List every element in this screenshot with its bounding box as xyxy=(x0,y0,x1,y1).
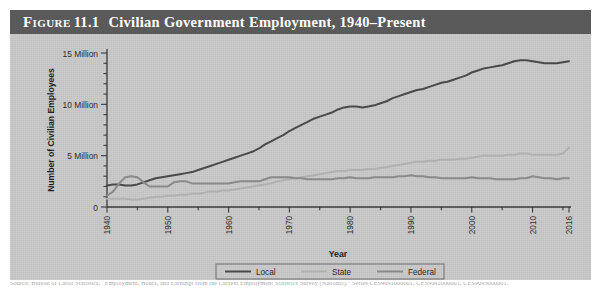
series-line-state xyxy=(107,147,569,199)
figure-panel: Figure11.1Civilian Government Employment… xyxy=(10,10,591,280)
x-tick-label: 1950 xyxy=(164,216,173,235)
y-tick-label: 15 Million xyxy=(63,49,99,59)
x-tick-label: 2000 xyxy=(468,216,477,235)
chart-area: 05 Million10 Million15 MillionNumber of … xyxy=(10,34,591,280)
y-tick-label: 5 Million xyxy=(67,151,98,161)
legend-label-local: Local xyxy=(256,268,276,277)
line-chart: 05 Million10 Million15 MillionNumber of … xyxy=(10,34,591,280)
x-axis-title: Year xyxy=(329,249,348,259)
legend-label-state: State xyxy=(332,268,352,277)
data-series xyxy=(107,60,569,200)
x-tick-label: 2010 xyxy=(529,216,538,235)
y-axis-title: Number of Civilian Employees xyxy=(46,68,56,192)
x-tick-label: 1960 xyxy=(225,216,234,235)
figure-label-word: Figure xyxy=(23,14,71,30)
y-tick-label: 10 Million xyxy=(63,100,99,110)
x-tick-label: 1940 xyxy=(103,216,112,235)
figure-title-text: Civilian Government Employment, 1940–Pre… xyxy=(108,14,425,30)
figure-source-caption: Source: Bureau of Labor Statistics, “Emp… xyxy=(10,282,591,293)
legend-label-federal: Federal xyxy=(408,268,436,277)
axes xyxy=(107,49,571,207)
figure-number: 11.1 xyxy=(74,14,100,30)
figure-title: Figure11.1Civilian Government Employment… xyxy=(10,14,426,31)
x-axis-ticks: 194019501960197019801990200020102016 xyxy=(103,207,574,234)
figure-container: Figure11.1Civilian Government Employment… xyxy=(0,0,601,293)
y-tick-label: 0 xyxy=(93,203,98,213)
series-line-federal xyxy=(107,175,569,196)
x-tick-label: 1970 xyxy=(285,216,294,235)
y-axis-ticks: 05 Million10 Million15 Million xyxy=(63,49,107,213)
chart-legend: LocalStateFederal xyxy=(216,264,444,279)
x-tick-label: 1990 xyxy=(407,216,416,235)
x-tick-label: 2016 xyxy=(565,216,574,235)
series-line-local xyxy=(107,60,569,185)
x-tick-label: 1980 xyxy=(346,216,355,235)
figure-source-text: Source: Bureau of Labor Statistics, “Emp… xyxy=(10,282,591,286)
figure-title-bar: Figure11.1Civilian Government Employment… xyxy=(10,10,591,34)
